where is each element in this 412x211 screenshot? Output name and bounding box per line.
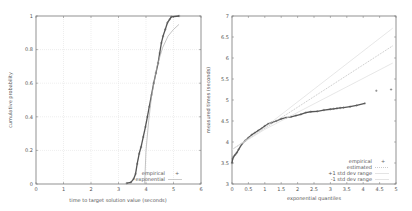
y-tick-label: 0.2	[25, 147, 33, 153]
x-tick-label: 4	[362, 186, 365, 192]
x-tick-label: 3	[329, 186, 332, 192]
series-layer	[231, 28, 393, 164]
y-tick-label: 4.5	[221, 118, 229, 124]
x-tick-label: 4	[144, 186, 147, 192]
data-segment-empirical	[136, 164, 138, 174]
x-tick-label: 0	[230, 186, 233, 192]
y-tick-label: 0.6	[25, 80, 33, 86]
x-tick-label: 3.5	[343, 186, 351, 192]
x-tick-label: 1.5	[277, 186, 285, 192]
legend-label-exponential: exponential	[136, 176, 165, 183]
data-segment-empirical	[165, 23, 167, 30]
y-tick-label: 5	[226, 97, 229, 103]
y-axis-label: measured times (seconds)	[205, 67, 211, 133]
x-axis-label: time to target solution value (seconds)	[69, 197, 166, 204]
x-tick-label: 0.5	[244, 186, 252, 192]
series-layer	[126, 15, 181, 185]
x-tick-label: 6	[199, 186, 202, 192]
y-tick-label: 0	[30, 181, 33, 187]
y-tick-label: 0.8	[25, 46, 33, 52]
x-tick-label: 1	[263, 186, 266, 192]
y-tick-label: 3	[226, 181, 229, 187]
legend-marker-empirical: +	[175, 170, 179, 176]
data-segment-empirical	[143, 127, 145, 137]
data-point-empirical	[178, 15, 180, 17]
y-tick-label: 5.5	[221, 76, 229, 82]
x-tick-label: 4.5	[376, 186, 384, 192]
y-tick-label: 0.4	[25, 114, 33, 120]
y-tick-label: 6.5	[221, 34, 229, 40]
series-line-estimated	[232, 46, 393, 150]
data-segment-empirical	[357, 103, 365, 105]
data-segment-empirical	[145, 117, 147, 127]
x-axis-label: exponential quantiles	[287, 195, 341, 202]
data-point-empirical	[390, 88, 392, 90]
legend-label-minus-std: -1 std dev range	[331, 176, 372, 183]
x-tick-label: 5	[172, 186, 175, 192]
data-segment-empirical	[141, 137, 143, 147]
y-axis-ticks: 00.20.40.60.81	[25, 13, 201, 187]
grid	[36, 16, 201, 184]
data-segment-empirical	[139, 147, 141, 154]
qq-chart: 00.511.522.533.544.55 33.544.555.566.57 …	[205, 13, 398, 202]
cdf-chart: 0123456 00.20.40.60.81 time to target so…	[7, 13, 203, 204]
y-tick-label: 3.5	[221, 160, 229, 166]
x-tick-label: 1	[62, 186, 65, 192]
legend: empirical + exponential	[136, 170, 182, 183]
y-tick-label: 6	[226, 55, 229, 61]
y-tick-label: 7	[226, 13, 229, 19]
data-segment-empirical	[163, 29, 165, 36]
data-segment-empirical	[167, 19, 169, 22]
y-axis-label: cumulative probability	[7, 72, 14, 128]
data-segment-empirical	[131, 179, 134, 182]
data-point-empirical	[375, 90, 377, 92]
y-tick-label: 1	[30, 13, 33, 19]
x-tick-label: 0	[34, 186, 37, 192]
y-tick-label: 4	[226, 139, 229, 145]
legend-marker-empirical: +	[381, 158, 385, 164]
data-segment-empirical	[137, 154, 139, 164]
x-tick-label: 2.5	[310, 186, 318, 192]
data-segment-empirical	[301, 113, 306, 115]
x-tick-label: 5	[394, 186, 397, 192]
legend: empirical + estimated +1 std dev range -…	[328, 158, 389, 183]
series-line-1-std-dev-range	[232, 63, 393, 150]
figure: 0123456 00.20.40.60.81 time to target so…	[0, 0, 412, 211]
x-tick-label: 3	[117, 186, 120, 192]
x-tick-label: 2	[296, 186, 299, 192]
data-segment-empirical	[276, 119, 281, 121]
x-tick-label: 2	[89, 186, 92, 192]
